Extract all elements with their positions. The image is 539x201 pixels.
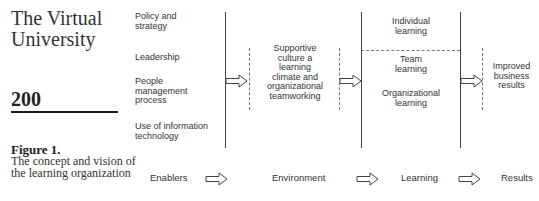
learning-line: learning bbox=[362, 65, 460, 75]
environment-box-text: Supportive culture a learning climate an… bbox=[252, 44, 338, 101]
individual-learning: Individual learning bbox=[362, 17, 460, 36]
arrow-right-icon bbox=[340, 75, 362, 87]
enabler-information-technology: Use of information technology bbox=[135, 122, 208, 141]
stage-enablers: Enablers bbox=[150, 172, 188, 183]
journal-title: The Virtual University bbox=[11, 8, 102, 50]
arrow-right-icon bbox=[206, 173, 228, 185]
environment-line: teamworking bbox=[252, 92, 338, 102]
arrow-right-icon bbox=[459, 173, 481, 185]
learning-line: learning bbox=[362, 27, 460, 37]
learning-dashed-separator bbox=[361, 50, 460, 51]
journal-title-line1: The Virtual bbox=[11, 8, 102, 29]
arrow-right-icon bbox=[461, 75, 483, 87]
results-line: results bbox=[484, 81, 539, 91]
enabler-text: strategy bbox=[135, 22, 177, 32]
stage-environment: Environment bbox=[272, 172, 325, 183]
arrow-right-icon bbox=[226, 75, 248, 87]
results-box-text: Improved business results bbox=[484, 62, 539, 91]
enabler-policy-strategy: Policy and strategy bbox=[135, 12, 177, 31]
environment-left-dashed bbox=[249, 48, 250, 110]
team-learning: Team learning bbox=[362, 55, 460, 74]
enabler-leadership: Leadership bbox=[135, 53, 180, 63]
enabler-people-management: People management process bbox=[135, 77, 188, 106]
figure-caption: The concept and vision of the learning o… bbox=[11, 155, 151, 179]
page-number: 200 bbox=[11, 88, 41, 111]
organizational-learning: Organizational learning bbox=[362, 89, 460, 108]
stage-learning: Learning bbox=[401, 172, 438, 183]
arrow-right-icon bbox=[357, 173, 379, 185]
stage-results: Results bbox=[501, 172, 533, 183]
enabler-text: Leadership bbox=[135, 53, 180, 63]
enabler-text: process bbox=[135, 96, 188, 106]
journal-title-line2: University bbox=[11, 29, 102, 50]
learning-line: learning bbox=[362, 99, 460, 109]
enabler-text: technology bbox=[135, 132, 208, 142]
header-rule bbox=[11, 111, 118, 113]
